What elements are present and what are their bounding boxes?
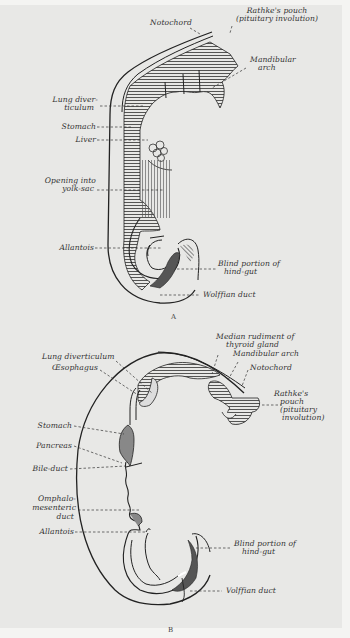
figure-b-drawing [77, 352, 260, 605]
label-b-mandibular-arch: Mandibular arch [233, 350, 299, 358]
label-b-wolffian-duct: Volffian duct [226, 587, 276, 595]
label-a-wolffian-duct: Wolffian duct [203, 291, 256, 299]
scanned-page: Notochord Rathke's pouch (pituitary invo… [0, 0, 350, 638]
label-b-notochord: Notochord [250, 364, 292, 372]
label-a-liver: Liver [30, 136, 96, 144]
figure-a-caption: A [171, 313, 176, 321]
label-b-pancreas: Pancreas [10, 442, 72, 450]
label-b-stomach: Stomach [10, 422, 72, 430]
figure-b-caption: B [168, 626, 173, 634]
label-b-allantois: Allantois [10, 528, 74, 536]
label-a-opening-into-yolk-sac-2: yolk-sac [20, 185, 94, 193]
label-a-stomach: Stomach [30, 123, 96, 131]
label-b-lung-diverticulum: Lung diverticulum [42, 353, 115, 361]
label-b-bile-duct: Bile-duct [10, 465, 68, 473]
label-a-allantois: Allantois [20, 244, 94, 252]
label-b-rathkes-pouch-4: involution) [282, 414, 325, 422]
label-b-omphalomesenteric-duct-3: duct [10, 513, 74, 521]
label-a-lung-diverticulum-2: ticulum [30, 104, 94, 112]
label-a-notochord: Notochord [150, 19, 192, 27]
label-a-blind-hind-gut-2: hind-gut [224, 268, 257, 276]
label-a-rathkes-pouch-sub: (pituitary involution) [215, 15, 339, 23]
label-b-oesophagus: Œsophagus [52, 364, 98, 372]
liver-bud [149, 141, 168, 162]
label-b-blind-hind-gut-2: hind-gut [242, 548, 275, 556]
label-a-mandibular-arch-2: arch [258, 64, 276, 72]
